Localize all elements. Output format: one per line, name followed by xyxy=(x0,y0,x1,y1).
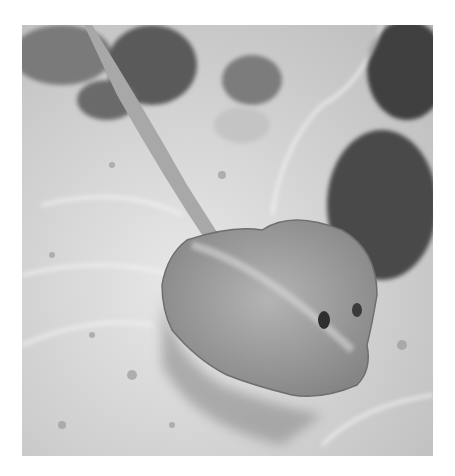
pebble xyxy=(214,107,270,143)
stingray-photo xyxy=(22,25,433,456)
ray-eye-right xyxy=(352,303,362,317)
ray-eye-left xyxy=(318,311,330,329)
rock-top-center xyxy=(222,55,282,105)
photo-canvas xyxy=(22,25,433,456)
